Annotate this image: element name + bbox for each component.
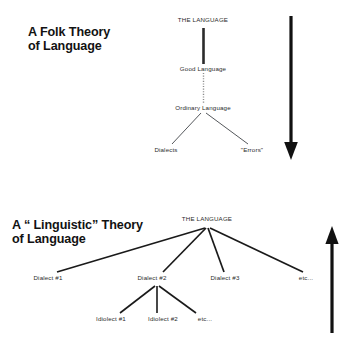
linguistic-theory-title: A “ Linguistic” Theory of Language (12, 219, 143, 246)
folk-node-ordinary-language: Ordinary Language (175, 104, 231, 112)
folk-theory-title-line2: of Language (28, 40, 110, 54)
folk-node-dialects: Dialects (154, 146, 177, 154)
linguistic-node-dialect-1: Dialect #1 (33, 274, 62, 282)
edge-ordinary-language-to-dialects (172, 113, 201, 144)
folk-node-good-language: Good Language (180, 65, 226, 73)
linguistic-node-idiolect-etc: etc... (198, 315, 212, 323)
linguistic-node-the-language: THE LANGUAGE (182, 215, 232, 223)
edge-the-language-to-dialect-3 (208, 228, 224, 272)
linguistic-node-dialect-2: Dialect #2 (137, 274, 166, 282)
edge-dialect-2-to-idiolect-etc (159, 286, 196, 313)
edge-ordinary-language-to-errors (206, 113, 248, 144)
linguistic-node-dialect-3: Dialect #3 (210, 274, 239, 282)
linguistic-theory-title-line1: A “ Linguistic” Theory (12, 218, 143, 232)
linguistic-theory-title-line2: of Language (12, 233, 143, 247)
folk-theory-title: A Folk Theory of Language (28, 26, 110, 53)
diagram-canvas: A Folk Theory of Language THE LANGUAGE G… (0, 0, 343, 339)
up-arrow-icon (325, 226, 338, 333)
edge-the-language-to-dialect-etc (210, 228, 303, 272)
linguistic-node-idiolect-2: Idiolect #2 (148, 315, 178, 323)
folk-node-the-language: THE LANGUAGE (178, 16, 228, 24)
folk-node-errors: "Errors" (241, 146, 263, 154)
folk-theory-title-line1: A Folk Theory (28, 25, 110, 39)
down-arrow-icon (284, 16, 298, 160)
edge-the-language-to-dialect-2 (163, 228, 206, 272)
linguistic-node-dialect-etc: etc... (299, 274, 313, 282)
linguistic-node-idiolect-1: Idiolect #1 (96, 315, 126, 323)
edge-dialect-2-to-idiolect-1 (120, 286, 155, 313)
